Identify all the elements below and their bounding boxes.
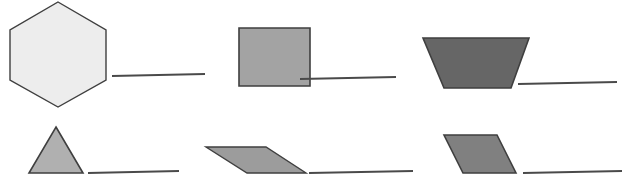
shapes-and-lines-svg bbox=[0, 0, 631, 186]
square-shape bbox=[239, 28, 310, 86]
figure-canvas bbox=[0, 0, 631, 186]
